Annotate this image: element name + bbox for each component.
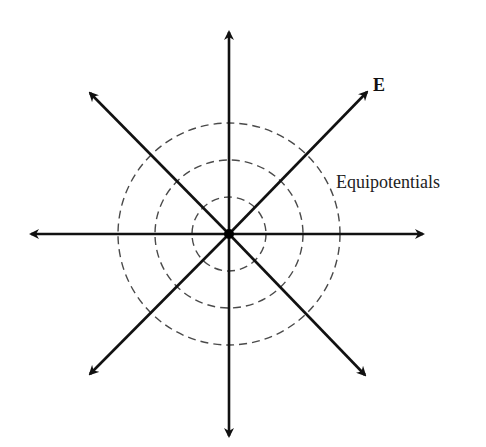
equipotentials-label: Equipotentials bbox=[336, 172, 440, 192]
field-label-E: E bbox=[373, 75, 385, 95]
field-line-down-left bbox=[90, 234, 229, 374]
point-charge bbox=[224, 229, 234, 239]
field-diagram: E Equipotentials bbox=[0, 0, 486, 447]
